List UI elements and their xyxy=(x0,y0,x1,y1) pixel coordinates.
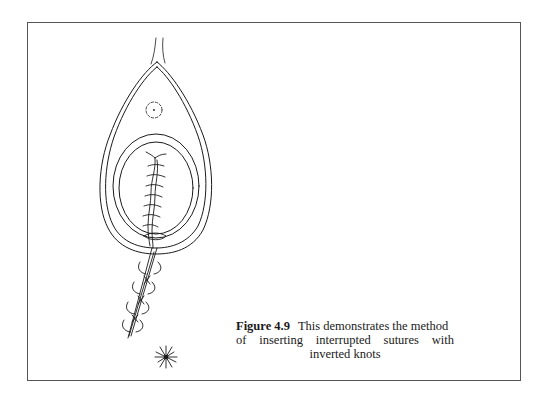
figure-caption: Figure 4.9This demonstrates the method o… xyxy=(236,319,506,361)
caption-line-2: of inserting interrupted sutures with xyxy=(236,333,454,347)
stem-lines xyxy=(151,38,165,64)
caption-line-1: Figure 4.9This demonstrates the method xyxy=(236,319,506,333)
oval-inner xyxy=(119,142,193,234)
caption-line-3: inverted knots xyxy=(236,347,454,361)
figure-label: Figure 4.9 xyxy=(236,319,290,333)
knot-starburst xyxy=(155,346,177,368)
suture-needle-tail xyxy=(122,248,161,338)
dashed-circle-center-dot xyxy=(153,109,155,111)
caption-text-1: This demonstrates the method xyxy=(298,319,448,333)
